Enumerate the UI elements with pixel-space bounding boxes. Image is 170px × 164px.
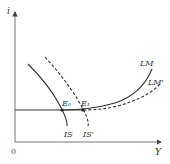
origin-label: 0 [11,147,16,156]
point-e0 [60,108,63,111]
is-prime-label: IS' [82,130,94,139]
point-e1 [81,108,84,111]
lm-prime-curve [83,84,160,110]
is-label: IS [63,130,73,139]
x-axis-label: Y [155,147,162,157]
lm-prime-label: LM' [147,78,164,87]
y-axis-label: i [7,6,10,16]
lm-label: LM [139,59,154,68]
e1-label: E₁ [80,99,90,108]
is-lm-diagram: i Y 0 E₀ E₁ IS IS' LM LM' [0,0,170,164]
is-curve [28,64,67,126]
e0-label: E₀ [61,99,72,108]
lm-curve [62,69,152,110]
